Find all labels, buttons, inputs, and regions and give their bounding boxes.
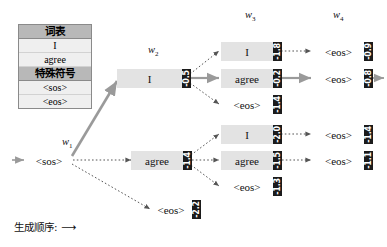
node-score-chip: -0.8 (364, 69, 373, 88)
node-label: I (221, 46, 273, 58)
node-score-chip: -0.5 (182, 69, 191, 88)
node-label: <eos> (313, 46, 364, 58)
node-w3-bottom-eos[interactable]: <eos> -1.3 (221, 177, 282, 196)
edge-sos-to-eos (72, 164, 150, 209)
legend-special-item: <sos> (19, 81, 91, 95)
generation-order-caption: 生成顺序: ⟶ (14, 219, 76, 234)
legend-special-item: <eos> (19, 95, 91, 108)
legend-vocab-item: agree (19, 53, 91, 67)
edge-agree-to-eos (191, 165, 219, 186)
node-label: <eos> (313, 73, 364, 85)
node-label: agree (221, 73, 273, 85)
node-w2-i[interactable]: I -0.5 (117, 69, 191, 88)
node-score-chip: -1.4 (273, 95, 282, 114)
node-label: <eos> (221, 99, 273, 111)
node-label: agree (221, 155, 273, 167)
node-w2-agree[interactable]: agree -1.4 (131, 151, 192, 170)
node-label: I (117, 73, 182, 85)
node-label: <sos> (24, 155, 74, 167)
node-score-chip: -0.9 (364, 42, 373, 61)
node-w4-bottom-eos-1[interactable]: <eos> -1.4 (313, 125, 373, 144)
node-score-chip: -1.4 (364, 125, 373, 144)
column-header-w1: w1 (62, 136, 73, 150)
vocabulary-legend: 词表 I agree 特殊符号 <sos> <eos> (18, 24, 92, 109)
node-label: <eos> (313, 155, 364, 167)
column-header-w2: w2 (148, 44, 159, 58)
node-w4-top-eos[interactable]: <eos> -0.9 (313, 42, 373, 61)
node-score-chip: -0.2 (273, 69, 282, 88)
node-score-chip: -1.3 (273, 177, 282, 196)
beam-search-diagram: 词表 I agree 特殊符号 <sos> <eos> w1 w2 w3 w4 … (0, 0, 387, 247)
node-score-chip: -2.0 (273, 125, 282, 144)
node-w3-top-i[interactable]: I -1.8 (221, 42, 282, 61)
edge-i-to-eos (190, 83, 219, 104)
node-score-chip: -1.8 (273, 42, 282, 61)
edge-agree-to-i (191, 134, 219, 155)
column-header-w4: w4 (333, 9, 344, 23)
node-w1-sos[interactable]: <sos> (24, 151, 74, 170)
node-w2-eos[interactable]: <eos> -2.2 (150, 200, 201, 219)
node-score-chip: -1.4 (183, 151, 192, 170)
node-label: I (221, 129, 273, 141)
node-label: <eos> (221, 181, 273, 193)
node-label: <eos> (150, 204, 192, 216)
node-label: <eos> (313, 129, 364, 141)
node-label: agree (131, 155, 183, 167)
node-score-chip: -1.5 (273, 151, 282, 170)
legend-vocab-header: 词表 (19, 25, 91, 39)
node-w4-bottom-eos-2[interactable]: <eos> -1.1 (313, 151, 373, 170)
node-score-chip: -1.1 (364, 151, 373, 170)
node-w3-bottom-agree[interactable]: agree -1.5 (221, 151, 282, 170)
node-w4-selected-eos[interactable]: <eos> -0.8 (313, 69, 373, 88)
node-score-chip: -2.2 (192, 200, 201, 219)
column-header-w3: w3 (245, 9, 256, 23)
node-w3-top-eos[interactable]: <eos> -1.4 (221, 95, 282, 114)
legend-special-header: 特殊符号 (19, 67, 91, 81)
node-w3-bottom-i[interactable]: I -2.0 (221, 125, 282, 144)
node-w3-top-agree[interactable]: agree -0.2 (221, 69, 282, 88)
legend-vocab-item: I (19, 39, 91, 53)
edge-i-to-i (190, 51, 219, 74)
